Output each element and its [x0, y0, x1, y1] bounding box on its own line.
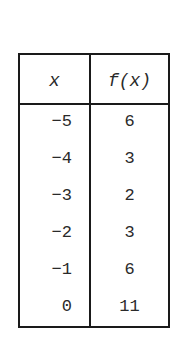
table-row: −4 3: [20, 142, 168, 179]
cell-x: −5: [20, 112, 72, 132]
table-row: 0 11: [20, 290, 168, 327]
cell-fx: 2: [91, 186, 168, 206]
cell-x: −1: [20, 260, 72, 280]
cell-fx: 6: [91, 112, 168, 132]
cell-fx: 3: [91, 223, 168, 243]
table-body: −5 6 −4 3 −3 2 −2 3 −1 6 0 11: [20, 105, 168, 327]
cell-x: −4: [20, 149, 72, 169]
cell-x: 0: [20, 297, 72, 317]
header-fx: f(x): [91, 71, 168, 91]
function-value-table: x f(x) −5 6 −4 3 −3 2 −2 3 −1 6 0 11: [18, 53, 170, 328]
cell-fx: 6: [91, 260, 168, 280]
cell-fx: 3: [91, 149, 168, 169]
table-row: −5 6: [20, 105, 168, 142]
table-header-row: x f(x): [20, 55, 168, 105]
cell-fx: 11: [91, 297, 168, 317]
cell-x: −3: [20, 186, 72, 206]
table-row: −1 6: [20, 253, 168, 290]
table-row: −3 2: [20, 179, 168, 216]
table-row: −2 3: [20, 216, 168, 253]
cell-x: −2: [20, 223, 72, 243]
header-x: x: [20, 71, 89, 91]
